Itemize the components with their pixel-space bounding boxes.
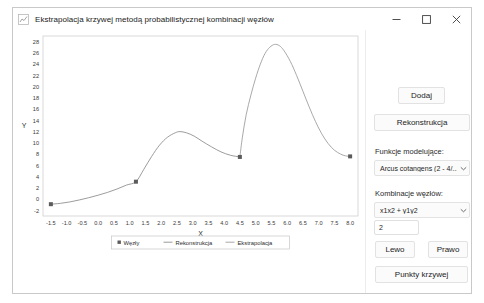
y-axis-tick-labels: -20246810121416182022242628 <box>33 39 39 214</box>
panel-divider <box>365 30 366 293</box>
y-tick-label: -2 <box>34 208 39 214</box>
controls-panel: Dodaj Rekonstrukcja Funkcje modelujące: … <box>365 30 471 293</box>
y-tick-label: 22 <box>33 73 39 79</box>
x-tick-label: 7.0 <box>315 220 323 226</box>
y-tick-label: 28 <box>33 39 39 45</box>
parameter-input[interactable] <box>374 220 419 235</box>
y-tick-label: 12 <box>33 129 39 135</box>
x-tick-label: 1.5 <box>141 220 149 226</box>
x-tick-label: 6.0 <box>283 220 291 226</box>
reconstruct-button[interactable]: Rekonstrukcja <box>374 114 470 131</box>
chart-panel: -20246810121416182022242628 -1.5-1.0-0.5… <box>13 30 365 293</box>
chevron-down-icon <box>457 208 469 213</box>
x-axis-tick-labels: -1.5-1.0-0.50.00.51.01.52.02.53.03.54.04… <box>46 220 354 226</box>
x-tick-label: 4.0 <box>220 220 228 226</box>
x-tick-label: 5.5 <box>267 220 275 226</box>
node-marker <box>348 154 352 158</box>
left-button[interactable]: Lewo <box>375 241 415 258</box>
x-tick-label: 8.0 <box>346 220 354 226</box>
node-combinations-select[interactable]: x1x2 + y1y2 <box>374 202 470 218</box>
y-tick-label: 16 <box>33 106 39 112</box>
x-tick-label: 1.0 <box>126 220 134 226</box>
modeling-functions-select[interactable]: Arcus cotangens (2 - 4/... <box>374 160 470 176</box>
legend-label: Rekonstrukcja <box>176 240 214 246</box>
x-tick-label: -1.0 <box>62 220 72 226</box>
x-tick-label: 3.5 <box>204 220 212 226</box>
y-tick-label: 18 <box>33 95 39 101</box>
chart-legend: WęzłyRekonstrukcjaEkstrapolacja <box>112 236 290 249</box>
y-tick-label: 0 <box>36 196 39 202</box>
y-tick-label: 10 <box>33 140 39 146</box>
right-button[interactable]: Prawo <box>428 241 468 258</box>
x-tick-label: 2.5 <box>173 220 181 226</box>
curve-points-button[interactable]: Punkty krzywej <box>375 266 468 283</box>
minimize-button[interactable] <box>381 9 411 30</box>
y-tick-label: 24 <box>33 61 39 67</box>
x-tick-label: 6.5 <box>299 220 307 226</box>
x-tick-label: 7.5 <box>330 220 338 226</box>
x-tick-label: 0.5 <box>110 220 118 226</box>
node-marker <box>49 202 53 206</box>
window-body: -20246810121416182022242628 -1.5-1.0-0.5… <box>13 30 471 293</box>
chart-plot-frame <box>43 36 358 216</box>
x-tick-label: 4.5 <box>236 220 244 226</box>
y-tick-label: 2 <box>36 185 39 191</box>
chart-canvas: -20246810121416182022242628 -1.5-1.0-0.5… <box>13 30 365 294</box>
y-tick-label: 8 <box>36 151 39 157</box>
y-tick-label: 20 <box>33 84 39 90</box>
node-combinations-label: Kombinacje węzłów: <box>375 189 443 198</box>
x-tick-label: 5.0 <box>252 220 260 226</box>
y-tick-label: 4 <box>36 174 39 180</box>
x-tick-label: -1.5 <box>46 220 56 226</box>
add-node-button[interactable]: Dodaj <box>398 87 445 104</box>
x-tick-label: -0.5 <box>78 220 88 226</box>
chevron-down-icon <box>457 166 469 171</box>
maximize-button[interactable] <box>411 9 441 30</box>
application-window: Ekstrapolacja krzywej metodą probabilist… <box>12 7 472 294</box>
node-marker <box>134 180 138 184</box>
legend-label: Ekstrapolacja <box>238 240 274 246</box>
node-combinations-value: x1x2 + y1y2 <box>375 207 457 214</box>
y-axis-title: Y <box>22 122 27 129</box>
legend-label: Węzły <box>124 240 140 246</box>
y-tick-label: 6 <box>36 163 39 169</box>
chart-app-icon <box>18 14 29 25</box>
window-title: Ekstrapolacja krzywej metodą probabilist… <box>35 15 381 24</box>
y-tick-label: 14 <box>33 118 39 124</box>
close-button[interactable] <box>441 9 471 30</box>
modeling-functions-value: Arcus cotangens (2 - 4/... <box>375 165 457 172</box>
legend-marker-square <box>118 241 121 244</box>
node-marker <box>238 155 242 159</box>
y-tick-label: 26 <box>33 50 39 56</box>
x-tick-label: 2.0 <box>157 220 165 226</box>
modeling-functions-label: Funkcje modelujące: <box>375 147 444 156</box>
title-bar: Ekstrapolacja krzywej metodą probabilist… <box>13 8 471 30</box>
x-tick-label: 0.0 <box>94 220 102 226</box>
x-tick-label: 3.0 <box>189 220 197 226</box>
